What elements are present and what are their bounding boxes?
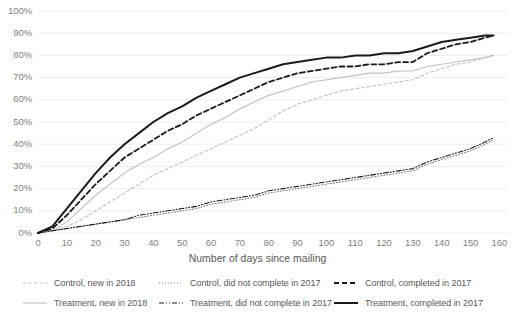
legend-item-treatment_did_not_complete_2017[interactable]: Treatment, did not complete in 2017 (158, 296, 332, 310)
legend-label: Treatment, new in 2018 (54, 298, 147, 308)
legend-label: Control, completed in 2017 (365, 278, 471, 288)
legend-item-control_did_not_complete_2017[interactable]: Control, did not complete in 2017 (158, 276, 320, 290)
x-axis-tick-label: 60 (198, 237, 224, 248)
legend-item-treatment_completed_2017[interactable]: Treatment, completed in 2017 (333, 296, 483, 310)
y-axis-tick-label: 90% (0, 27, 32, 38)
y-axis-tick-label: 40% (0, 138, 32, 149)
line-chart-svg (0, 0, 515, 268)
x-axis-tick-label: 20 (83, 237, 109, 248)
series-line-control_completed_2017 (38, 35, 494, 233)
x-axis-tick-label: 0 (25, 237, 51, 248)
y-axis-tick-label: 10% (0, 204, 32, 215)
x-axis-tick-label: 10 (54, 237, 80, 248)
legend-label: Control, did not complete in 2017 (190, 278, 320, 288)
legend-item-treatment_new_2018[interactable]: Treatment, new in 2018 (22, 296, 147, 310)
legend-swatch-treatment_completed_2017 (333, 297, 359, 309)
legend-item-control_completed_2017[interactable]: Control, completed in 2017 (333, 276, 471, 290)
y-axis-tick-label: 70% (0, 71, 32, 82)
chart-container: 0%10%20%30%40%50%60%70%80%90%100% 010203… (0, 0, 515, 320)
series-line-treatment_completed_2017 (38, 35, 494, 233)
y-axis-tick-label: 30% (0, 160, 32, 171)
x-axis-tick-label: 30 (112, 237, 138, 248)
legend-label: Control, new in 2018 (54, 278, 136, 288)
y-axis-tick-label: 0% (0, 227, 32, 238)
y-axis-tick-label: 50% (0, 116, 32, 127)
x-axis-title: Number of days since mailing (0, 252, 515, 264)
legend-swatch-control_new_2018 (22, 277, 48, 289)
x-axis-tick-label: 150 (458, 237, 484, 248)
x-axis-tick-label: 80 (256, 237, 282, 248)
legend-swatch-treatment_new_2018 (22, 297, 48, 309)
y-axis-tick-label: 60% (0, 93, 32, 104)
x-axis-tick-label: 70 (227, 237, 253, 248)
legend-swatch-control_did_not_complete_2017 (158, 277, 184, 289)
y-axis-tick-label: 80% (0, 49, 32, 60)
y-axis-tick-label: 100% (0, 5, 32, 16)
legend-item-control_new_2018[interactable]: Control, new in 2018 (22, 276, 136, 290)
legend-swatch-control_completed_2017 (333, 277, 359, 289)
y-axis-tick-label: 20% (0, 182, 32, 193)
x-axis-tick-label: 50 (169, 237, 195, 248)
series-line-treatment_did_not_complete_2017 (38, 138, 494, 233)
x-axis-tick-label: 90 (285, 237, 311, 248)
x-axis-tick-label: 130 (400, 237, 426, 248)
x-axis-tick-label: 100 (313, 237, 339, 248)
x-axis-tick-label: 160 (486, 237, 512, 248)
chart-legend: Control, new in 2018Control, did not com… (0, 276, 515, 320)
x-axis-tick-label: 140 (429, 237, 455, 248)
x-axis-tick-label: 110 (342, 237, 368, 248)
legend-label: Treatment, completed in 2017 (365, 298, 483, 308)
legend-label: Treatment, did not complete in 2017 (190, 298, 332, 308)
x-axis-tick-label: 40 (140, 237, 166, 248)
plot-area: 0%10%20%30%40%50%60%70%80%90%100% 010203… (0, 0, 515, 268)
x-axis-tick-label: 120 (371, 237, 397, 248)
legend-swatch-treatment_did_not_complete_2017 (158, 297, 184, 309)
